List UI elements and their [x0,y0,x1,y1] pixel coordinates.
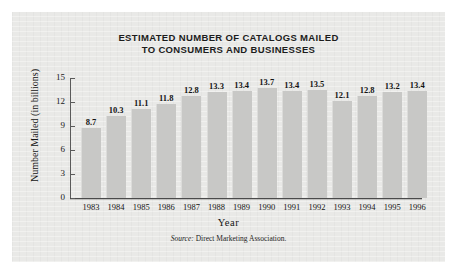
bar [81,128,101,198]
y-axis-tick-label: 0 [43,192,65,202]
plot-area [70,78,422,198]
source-prefix: Source: [171,234,194,243]
bar [307,90,327,198]
bar [357,96,377,198]
y-axis-title: Number Mailed (in billions) [29,66,40,186]
bar [282,91,302,198]
x-axis-title: Year [12,217,445,228]
chart-page: ESTIMATED NUMBER OF CATALOGS MAILED TO C… [0,0,458,277]
bar [232,91,252,198]
chart-title-line-2: TO CONSUMERS AND BUSINESSES [12,44,445,56]
source-note: Source: Direct Marketing Association. [12,234,445,243]
y-axis-tick [71,198,75,199]
bar [181,96,201,198]
bar-value-label: 8.7 [76,117,106,127]
chart-panel: ESTIMATED NUMBER OF CATALOGS MAILED TO C… [12,12,445,262]
bar [207,92,227,198]
bar [382,92,402,198]
y-axis-tick-label: 3 [43,168,65,178]
y-axis-tick-label: 15 [43,72,65,82]
y-axis-tick-label: 12 [43,96,65,106]
bar [332,101,352,198]
bar [407,91,427,198]
x-axis-tick-label: 1996 [402,202,432,212]
bar [106,116,126,198]
bar [131,109,151,198]
bar [156,104,176,198]
y-axis-tick-label: 6 [43,144,65,154]
bar-value-label: 13.5 [302,79,332,89]
bar [257,88,277,198]
chart-title-line-1: ESTIMATED NUMBER OF CATALOGS MAILED [12,32,445,44]
source-text: Direct Marketing Association. [196,234,287,243]
y-axis-tick-label: 9 [43,120,65,130]
bar-value-label: 13.4 [402,80,432,90]
chart-title: ESTIMATED NUMBER OF CATALOGS MAILED TO C… [12,32,445,56]
x-axis-line [70,198,422,199]
